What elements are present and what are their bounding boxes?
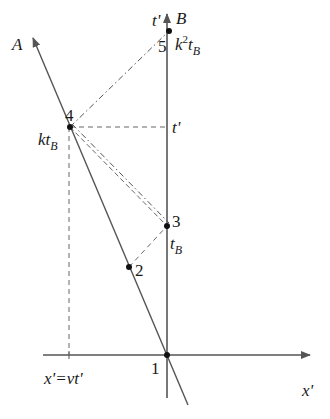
squared-superscript: 2 (183, 33, 189, 45)
point-3-label: 3 (172, 213, 181, 230)
b-subscript: B (175, 243, 182, 257)
spacetime-diagram (0, 0, 330, 419)
b-axis-label: B (176, 10, 186, 27)
signal-3-to-4-dashed (70, 127, 167, 226)
point-4-annotation: ktB (38, 131, 58, 148)
kt-symbol: kt (38, 130, 50, 149)
a-worldline (33, 38, 188, 405)
point-2-label: 2 (135, 262, 144, 279)
signal-3-to-4-dashdot (72, 124, 169, 223)
worldline-a-label: A (12, 36, 22, 53)
t-prime-axis-label: t' (152, 12, 160, 29)
b-subscript: B (193, 44, 200, 58)
event-point-5 (166, 28, 172, 34)
position-projection-label: x'=vt' (44, 370, 83, 387)
point-1-label: 1 (151, 360, 160, 377)
event-point-1 (164, 352, 170, 358)
b-subscript: B (50, 139, 57, 153)
event-point-2 (126, 264, 132, 270)
event-point-3 (164, 223, 170, 229)
point-4-label: 4 (65, 107, 74, 124)
signal-4-to-5 (70, 31, 169, 127)
k-symbol: k (175, 35, 183, 54)
time-projection-label: t' (172, 119, 180, 136)
point-5-label: 5 (158, 38, 167, 55)
point-3-annotation: tB (170, 235, 182, 252)
x-prime-axis-label: x' (302, 382, 313, 399)
point-5-annotation: k2tB (175, 36, 200, 53)
